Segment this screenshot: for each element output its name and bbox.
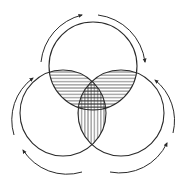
venn-diagram bbox=[0, 0, 182, 183]
arrow-top-right-icon bbox=[98, 15, 145, 62]
arrow-top-left-icon bbox=[41, 15, 82, 62]
arrow-left-lower-icon bbox=[23, 150, 82, 174]
arrow-right-upper-icon bbox=[155, 80, 175, 133]
arrow-right-lower-icon bbox=[110, 143, 167, 173]
